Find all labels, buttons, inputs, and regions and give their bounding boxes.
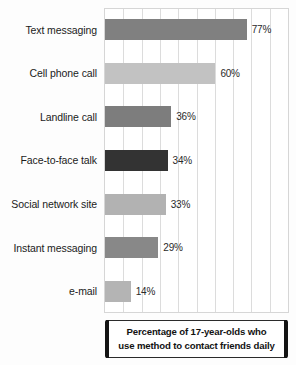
bar-wrapper: 29% xyxy=(105,226,289,270)
bar-wrapper: 60% xyxy=(105,52,289,96)
bar xyxy=(105,237,158,258)
bar-value-label: 14% xyxy=(136,286,155,297)
bar xyxy=(105,194,166,215)
category-label: Cell phone call xyxy=(0,67,97,79)
caption-text: Percentage of 17-year-olds who use metho… xyxy=(111,325,281,353)
bar xyxy=(105,106,171,127)
chart-caption: Percentage of 17-year-olds who use metho… xyxy=(106,320,287,358)
bar xyxy=(105,281,131,302)
bar-row: Cell phone call60% xyxy=(0,52,296,96)
category-label: e-mail xyxy=(0,285,97,297)
bar-value-label: 60% xyxy=(220,68,239,79)
bar-row: Social network site33% xyxy=(0,182,296,226)
bar-row: Text messaging77% xyxy=(0,8,296,52)
category-label: Face-to-face talk xyxy=(0,154,97,166)
bar-value-label: 36% xyxy=(176,111,195,122)
bar-chart: Text messaging77%Cell phone call60%Landl… xyxy=(0,0,296,365)
bar-row: Landline call36% xyxy=(0,95,296,139)
bar-wrapper: 36% xyxy=(105,95,289,139)
category-label: Landline call xyxy=(0,111,97,123)
bar-wrapper: 14% xyxy=(105,269,289,313)
bar-wrapper: 34% xyxy=(105,139,289,183)
bar-rows: Text messaging77%Cell phone call60%Landl… xyxy=(0,8,296,313)
bar-value-label: 34% xyxy=(173,155,192,166)
bar-row: Instant messaging29% xyxy=(0,226,296,270)
bar-value-label: 77% xyxy=(252,24,271,35)
bar xyxy=(105,63,215,84)
bar-wrapper: 33% xyxy=(105,182,289,226)
bar-wrapper: 77% xyxy=(105,8,289,52)
category-label: Text messaging xyxy=(0,24,97,36)
caption-line-2: use method to contact friends daily xyxy=(118,339,274,353)
category-label: Social network site xyxy=(0,198,97,210)
bar-row: e-mail14% xyxy=(0,269,296,313)
category-label: Instant messaging xyxy=(0,242,97,254)
bar-row: Face-to-face talk34% xyxy=(0,139,296,183)
bar xyxy=(105,19,247,40)
bar xyxy=(105,150,168,171)
bar-value-label: 33% xyxy=(171,199,190,210)
bar-value-label: 29% xyxy=(163,242,182,253)
caption-line-1: Percentage of 17-year-olds who xyxy=(118,325,274,339)
